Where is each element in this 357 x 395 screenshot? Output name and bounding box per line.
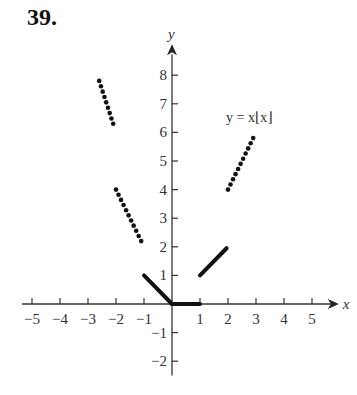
x-tick-label: 5: [308, 311, 316, 327]
y-tick-label: 1: [160, 267, 168, 283]
function-label: y = x⌊x⌋: [226, 110, 273, 125]
y-tick-label: 4: [160, 182, 168, 198]
y-tick-label: 2: [160, 239, 168, 255]
function-dot: [119, 198, 124, 203]
y-tick-label: 3: [160, 210, 168, 226]
y-tick-label: 6: [160, 124, 168, 140]
function-dot: [129, 218, 134, 223]
function-dot: [236, 167, 241, 172]
function-dot: [248, 141, 253, 146]
function-dot: [251, 136, 256, 141]
x-tick-label: −2: [108, 311, 124, 327]
function-dot: [226, 187, 231, 192]
x-axis-label: x: [342, 296, 350, 312]
x-tick-label: 1: [196, 311, 204, 327]
function-dot: [107, 111, 112, 116]
function-dot: [243, 151, 248, 156]
x-tick-label: −4: [52, 311, 68, 327]
function-dot: [246, 146, 251, 151]
y-axis-arrow-icon: [167, 44, 177, 55]
y-tick-label: 8: [160, 67, 168, 83]
y-tick-label: 5: [160, 153, 168, 169]
function-dot: [136, 234, 141, 239]
chart-plot: xy−5−4−3−2−112345−2−112345678y = x⌊x⌋: [0, 0, 357, 395]
y-tick-label: 7: [160, 96, 168, 112]
function-dot: [109, 116, 114, 121]
function-dot: [106, 105, 111, 110]
function-dot: [134, 228, 139, 233]
function-dot: [99, 84, 104, 89]
y-axis-label: y: [166, 26, 175, 42]
x-tick-label: 4: [280, 311, 288, 327]
function-dot: [114, 187, 119, 192]
function-dot: [97, 79, 102, 84]
x-tick-label: −3: [80, 311, 96, 327]
x-tick-label: −5: [24, 311, 40, 327]
function-dot: [139, 239, 144, 244]
function-dot: [116, 192, 121, 197]
function-dot: [126, 213, 131, 218]
x-tick-label: 3: [252, 311, 260, 327]
function-dot: [121, 203, 126, 208]
function-dot: [131, 223, 136, 228]
function-segment: [200, 248, 227, 275]
function-dot: [111, 122, 116, 127]
x-tick-label: 2: [224, 311, 232, 327]
function-dot: [238, 162, 243, 167]
y-tick-label: −1: [151, 325, 167, 341]
function-segment: [144, 275, 172, 304]
function-dot: [102, 95, 107, 100]
y-tick-label: −2: [151, 353, 167, 369]
function-dot: [228, 182, 233, 187]
x-tick-label: −1: [136, 311, 152, 327]
function-dot: [233, 172, 238, 177]
function-dot: [124, 208, 129, 213]
function-dot: [241, 156, 246, 161]
function-dot: [231, 177, 236, 182]
function-dot: [104, 100, 109, 105]
function-dot: [100, 89, 105, 94]
